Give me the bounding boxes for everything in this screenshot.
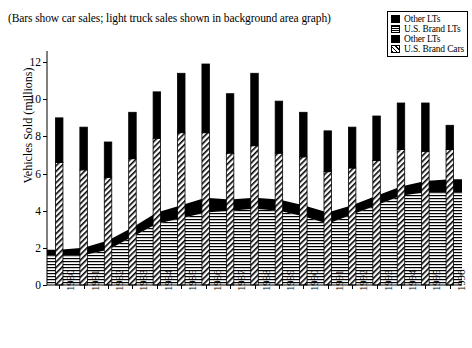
bar-us-brand-cars [373, 161, 381, 285]
bar-other-cars [80, 127, 88, 170]
bar-us-brand-cars [275, 153, 283, 285]
y-tick-mark [43, 248, 47, 249]
x-tick-label-1987: 1987 [235, 270, 247, 291]
y-tick-label: 8 [23, 131, 41, 141]
bar-us-brand-cars [251, 146, 259, 285]
bar-other-cars [104, 142, 112, 177]
legend-swatch-solid-icon [391, 35, 400, 43]
y-tick-label: 2 [23, 243, 41, 253]
x-tick-mark [279, 285, 280, 289]
bar-us-brand-cars [202, 133, 210, 285]
x-tick-mark [450, 285, 451, 289]
x-tick-label-1989: 1989 [284, 270, 296, 291]
legend-swatch-solid-icon [391, 15, 400, 23]
x-tick-label-1996: 1996 [455, 270, 467, 291]
bar-other-cars [129, 112, 137, 158]
bar-us-brand-cars [178, 133, 186, 285]
x-tick-label-1992: 1992 [357, 270, 369, 291]
x-tick-mark [181, 285, 182, 289]
y-tick-label: 6 [23, 169, 41, 179]
bar-us-brand-cars [153, 138, 161, 285]
bar-us-brand-cars [55, 162, 63, 285]
x-tick-mark [352, 285, 353, 289]
chart-legend: Other LTs U.S. Brand LTs Other LTs U.S. … [387, 11, 468, 57]
x-tick-label-1980: 1980 [64, 270, 76, 291]
bar-other-cars [202, 64, 210, 133]
legend-label: Other LTs [404, 34, 440, 44]
x-tick-mark [84, 285, 85, 289]
bar-us-brand-cars [324, 172, 332, 285]
x-tick-mark [401, 285, 402, 289]
x-tick-label-1984: 1984 [162, 270, 174, 291]
legend-label: Other LTs [404, 14, 440, 24]
bar-other-cars [397, 103, 405, 149]
x-tick-label-1986: 1986 [211, 270, 223, 291]
x-tick-mark [108, 285, 109, 289]
bar-us-brand-cars [80, 170, 88, 285]
x-tick-mark [255, 285, 256, 289]
x-tick-label-1988: 1988 [260, 270, 272, 291]
y-tick-mark [43, 285, 47, 286]
bar-us-brand-cars [422, 151, 430, 285]
x-tick-label-1993: 1993 [382, 270, 394, 291]
bar-us-brand-cars [397, 149, 405, 285]
x-tick-label-1994: 1994 [406, 270, 418, 291]
y-tick-label: 4 [23, 206, 41, 216]
bar-us-brand-cars [104, 177, 112, 285]
y-axis-title: Vehicles Sold (millions) [21, 46, 36, 206]
legend-item-us-brand-lts: U.S. Brand LTs [391, 24, 464, 34]
y-tick-mark [43, 174, 47, 175]
x-tick-mark [157, 285, 158, 289]
bar-other-cars [275, 101, 283, 153]
bar-us-brand-cars [446, 149, 454, 285]
bar-other-cars [251, 73, 259, 145]
bar-us-brand-cars [129, 159, 137, 285]
x-tick-mark [303, 285, 304, 289]
bar-other-cars [373, 116, 381, 161]
chart-container: (Bars show car sales; light truck sales … [0, 0, 472, 348]
x-tick-mark [230, 285, 231, 289]
legend-item-us-brand-cars: U.S. Brand Cars [391, 44, 464, 54]
x-tick-label-1985: 1985 [186, 270, 198, 291]
x-tick-label-1982: 1982 [113, 270, 125, 291]
bar-other-cars [324, 131, 332, 172]
x-tick-mark [377, 285, 378, 289]
x-tick-mark [59, 285, 60, 289]
legend-item-other-lts-1: Other LTs [391, 14, 464, 24]
x-tick-label-1983: 1983 [137, 270, 149, 291]
x-tick-mark [425, 285, 426, 289]
legend-label: U.S. Brand LTs [404, 24, 461, 34]
bar-us-brand-cars [226, 153, 234, 285]
bar-us-brand-cars [348, 168, 356, 285]
chart-subtitle-note: (Bars show car sales; light truck sales … [8, 12, 331, 24]
legend-item-other-lts-2: Other LTs [391, 34, 464, 44]
x-tick-label-1995: 1995 [430, 270, 442, 291]
y-tick-mark [43, 136, 47, 137]
x-tick-label-1990: 1990 [308, 270, 320, 291]
bar-other-cars [55, 118, 63, 163]
x-tick-mark [132, 285, 133, 289]
bar-other-cars [226, 94, 234, 153]
bar-other-cars [153, 92, 161, 138]
bar-other-cars [300, 112, 308, 157]
y-tick-mark [43, 62, 47, 63]
y-tick-mark [43, 99, 47, 100]
bar-other-cars [348, 127, 356, 168]
legend-swatch-diagonal-icon [391, 45, 400, 53]
bar-us-brand-cars [300, 157, 308, 285]
bar-other-cars [422, 103, 430, 151]
bar-other-cars [178, 73, 186, 132]
y-tick-mark [43, 211, 47, 212]
y-tick-label: 12 [23, 57, 41, 67]
y-tick-label: 0 [23, 280, 41, 290]
legend-swatch-hlines-icon [391, 25, 400, 33]
x-tick-mark [206, 285, 207, 289]
x-tick-label-1991: 1991 [333, 270, 345, 291]
bar-other-cars [446, 125, 454, 149]
legend-label: U.S. Brand Cars [404, 44, 464, 54]
y-tick-label: 10 [23, 94, 41, 104]
x-tick-mark [328, 285, 329, 289]
x-tick-label-1981: 1981 [89, 270, 101, 291]
